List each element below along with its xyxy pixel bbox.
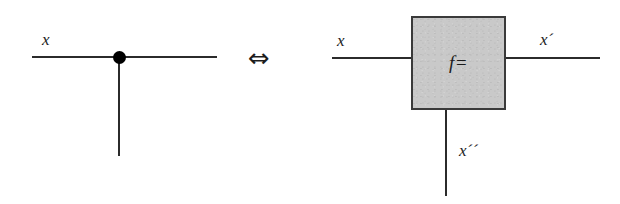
function-block-box: f=	[411, 16, 506, 110]
left-input-label-x: x	[42, 31, 50, 48]
left-vertical-wire	[118, 57, 120, 156]
bottom-output-label-x-double-prime: x´´	[459, 142, 478, 159]
right-input-wire	[332, 57, 413, 59]
equivalence-figure: x ⇔ f= x x´ x´´	[0, 0, 620, 204]
function-block-label: f=	[449, 52, 468, 74]
bottom-output-wire	[445, 109, 447, 196]
right-output-label-x-prime: x´	[540, 31, 553, 48]
equivalence-symbol: ⇔	[248, 45, 270, 71]
right-input-label-x: x	[337, 32, 345, 49]
branch-node-dot	[113, 51, 126, 64]
right-output-wire	[504, 57, 600, 59]
